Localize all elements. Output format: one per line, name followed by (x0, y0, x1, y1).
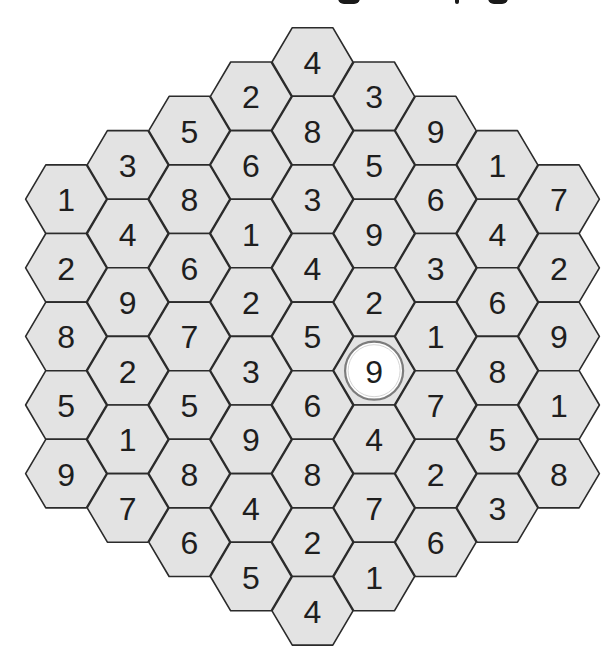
hex-cell-number: 9 (57, 457, 75, 493)
hex-cell-number: 1 (550, 388, 568, 424)
hex-cell-number: 6 (488, 285, 506, 321)
hex-cell-number: 7 (119, 491, 137, 527)
hex-cell-number: 9 (242, 422, 260, 458)
hex-cell-number: 6 (180, 525, 198, 561)
hex-cell-number: 4 (304, 251, 322, 287)
hex-puzzle-board: 1285934921758675862612394548345682435929… (0, 0, 615, 665)
hex-cell-number: 7 (365, 491, 383, 527)
hex-cell-number: 5 (488, 422, 506, 458)
hex-cell-number: 9 (427, 114, 445, 150)
hex-cell-number: 4 (304, 45, 322, 81)
hex-cell-number: 2 (119, 354, 137, 390)
hex-cell-number: 9 (119, 285, 137, 321)
hex-cell-number: 2 (550, 251, 568, 287)
hex-cell-number: 8 (488, 354, 506, 390)
hex-cell-number: 4 (365, 422, 383, 458)
hex-cell-number: 3 (427, 251, 445, 287)
hex-cell-number: 9 (550, 319, 568, 355)
hex-cell-number: 3 (488, 491, 506, 527)
hex-cell-number: 8 (180, 182, 198, 218)
hex-cell-number: 2 (304, 525, 322, 561)
hex-cell-number: 6 (304, 388, 322, 424)
hex-cell-number: 1 (488, 148, 506, 184)
hex-cell-number: 1 (242, 217, 260, 253)
hex-cell-number: 1 (427, 319, 445, 355)
hex-cell-number: 6 (427, 182, 445, 218)
hex-cell-number: 4 (488, 217, 506, 253)
hex-cell-number: 6 (427, 525, 445, 561)
hex-cell-number: 7 (550, 182, 568, 218)
hex-cell-number: 4 (119, 217, 137, 253)
hex-cell-number: 8 (550, 457, 568, 493)
hex-cell-number: 5 (365, 148, 383, 184)
hex-cell-number: 7 (180, 319, 198, 355)
hex-cell-number: 5 (304, 319, 322, 355)
hex-cell-number: 5 (242, 560, 260, 596)
hex-cell-number: 1 (119, 422, 137, 458)
hex-cell-number: 8 (180, 457, 198, 493)
hex-cell-number: 4 (242, 491, 260, 527)
hex-cell-number: 5 (180, 388, 198, 424)
hex-cell-number: 8 (304, 114, 322, 150)
hex-cell-number: 4 (304, 594, 322, 630)
hex-cell-number: 7 (427, 388, 445, 424)
hex-cell-number: 9 (365, 217, 383, 253)
hex-cell-number: 2 (242, 285, 260, 321)
hex-cell-number: 3 (119, 148, 137, 184)
hex-cell-number: 2 (365, 285, 383, 321)
hex-cell-number: 3 (242, 354, 260, 390)
hex-cell-number: 2 (427, 457, 445, 493)
hex-cell-number: 3 (365, 79, 383, 115)
hex-grid-canvas: 1285934921758675862612394548345682435929… (0, 0, 615, 665)
hex-cell-number: 5 (180, 114, 198, 150)
hex-cell-number: 1 (365, 560, 383, 596)
hex-cell-number: 1 (57, 182, 75, 218)
hex-cell-number: 6 (242, 148, 260, 184)
hex-cell-number: 9 (365, 354, 383, 390)
hex-cell-number: 2 (242, 79, 260, 115)
hex-cell-number: 8 (57, 319, 75, 355)
hex-cell-number: 3 (304, 182, 322, 218)
hex-cell-number: 5 (57, 388, 75, 424)
hex-cell-number: 8 (304, 457, 322, 493)
hex-cell-number: 6 (180, 251, 198, 287)
hex-cell-number: 2 (57, 251, 75, 287)
